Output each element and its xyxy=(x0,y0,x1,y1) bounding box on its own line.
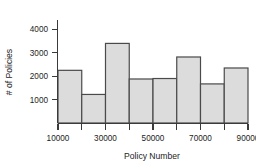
histogram-bar xyxy=(177,57,201,123)
histogram-bar xyxy=(129,79,153,123)
histogram-bar xyxy=(224,68,248,123)
histogram-svg: 1000200030004000 10000300005000070000900… xyxy=(0,0,256,167)
histogram-bar xyxy=(82,94,106,123)
x-tick-label: 30000 xyxy=(94,134,117,143)
y-axis-title: # of Policies xyxy=(4,49,14,95)
y-tick-label: 1000 xyxy=(30,96,49,105)
x-tick-label: 90000 xyxy=(237,134,256,143)
y-tick-label: 2000 xyxy=(30,72,49,81)
x-tick-label: 50000 xyxy=(142,134,165,143)
histogram-bar xyxy=(58,70,82,123)
y-tick-label: 4000 xyxy=(30,25,49,34)
histogram-chart-container: 1000200030004000 10000300005000070000900… xyxy=(0,0,256,167)
histogram-bar xyxy=(106,43,130,123)
x-tick-label: 70000 xyxy=(189,134,212,143)
histogram-bar xyxy=(201,84,225,123)
x-axis-title: Policy Number xyxy=(124,151,180,161)
x-tick-label: 10000 xyxy=(47,134,70,143)
histogram-bar xyxy=(153,79,177,123)
y-tick-label: 3000 xyxy=(30,49,49,58)
